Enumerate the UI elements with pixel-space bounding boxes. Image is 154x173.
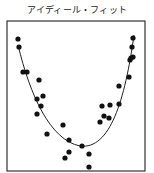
data-point <box>34 111 39 116</box>
data-point <box>101 113 106 118</box>
data-point <box>44 131 49 136</box>
data-point <box>129 44 134 49</box>
data-point <box>34 96 39 101</box>
fit-curve <box>18 35 134 146</box>
data-point <box>60 122 65 127</box>
data-point <box>106 115 111 120</box>
data-point <box>36 77 41 82</box>
plot-frame <box>7 21 145 171</box>
data-point <box>130 35 135 40</box>
data-point <box>40 93 45 98</box>
data-point <box>116 83 121 88</box>
data-point <box>15 36 20 41</box>
data-point <box>66 137 71 142</box>
data-point <box>24 69 29 74</box>
scatter-plot <box>0 0 154 173</box>
data-point <box>16 44 21 49</box>
data-point <box>79 143 84 148</box>
data-point <box>86 151 91 156</box>
data-point <box>86 164 91 169</box>
data-point <box>66 149 71 154</box>
data-point <box>62 155 67 160</box>
data-point <box>97 119 102 124</box>
data-point <box>126 74 131 79</box>
data-point <box>107 102 112 107</box>
data-point <box>130 54 135 59</box>
data-point <box>116 101 121 106</box>
data-point <box>99 103 104 108</box>
data-points <box>15 35 135 169</box>
data-point <box>38 103 43 108</box>
